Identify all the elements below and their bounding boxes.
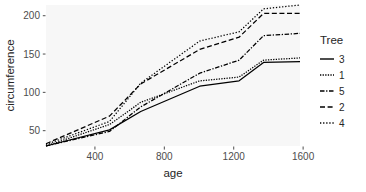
legend-label-tree-5: 5 <box>339 86 345 97</box>
chart-root: 5010015020040080012001600agecircumferenc… <box>0 0 366 192</box>
legend-item-tree-4[interactable]: 4 <box>320 118 345 129</box>
x-axis-tick-label: 1200 <box>223 151 246 162</box>
x-axis-tick-label: 1600 <box>292 151 315 162</box>
legend-item-tree-3[interactable]: 3 <box>320 54 345 65</box>
y-axis-tick-label: 50 <box>29 125 41 136</box>
y-axis-title: circumference <box>4 39 16 111</box>
legend-label-tree-1: 1 <box>339 70 345 81</box>
legend-title: Tree <box>320 34 343 46</box>
x-axis-tick-label: 800 <box>156 151 173 162</box>
line-chart: 5010015020040080012001600agecircumferenc… <box>0 0 366 192</box>
y-axis-tick-label: 200 <box>23 10 40 21</box>
x-axis-title: age <box>163 167 182 179</box>
y-axis-tick-label: 100 <box>23 87 40 98</box>
legend-item-tree-2[interactable]: 2 <box>320 102 345 113</box>
y-axis-tick-label: 150 <box>23 49 40 60</box>
legend-item-tree-1[interactable]: 1 <box>320 70 345 81</box>
legend-label-tree-4: 4 <box>339 118 345 129</box>
x-axis-tick-label: 400 <box>87 151 104 162</box>
legend-item-tree-5[interactable]: 5 <box>320 86 345 97</box>
legend-label-tree-2: 2 <box>339 102 345 113</box>
legend-label-tree-3: 3 <box>339 54 345 65</box>
plot-panel-background <box>46 5 300 146</box>
